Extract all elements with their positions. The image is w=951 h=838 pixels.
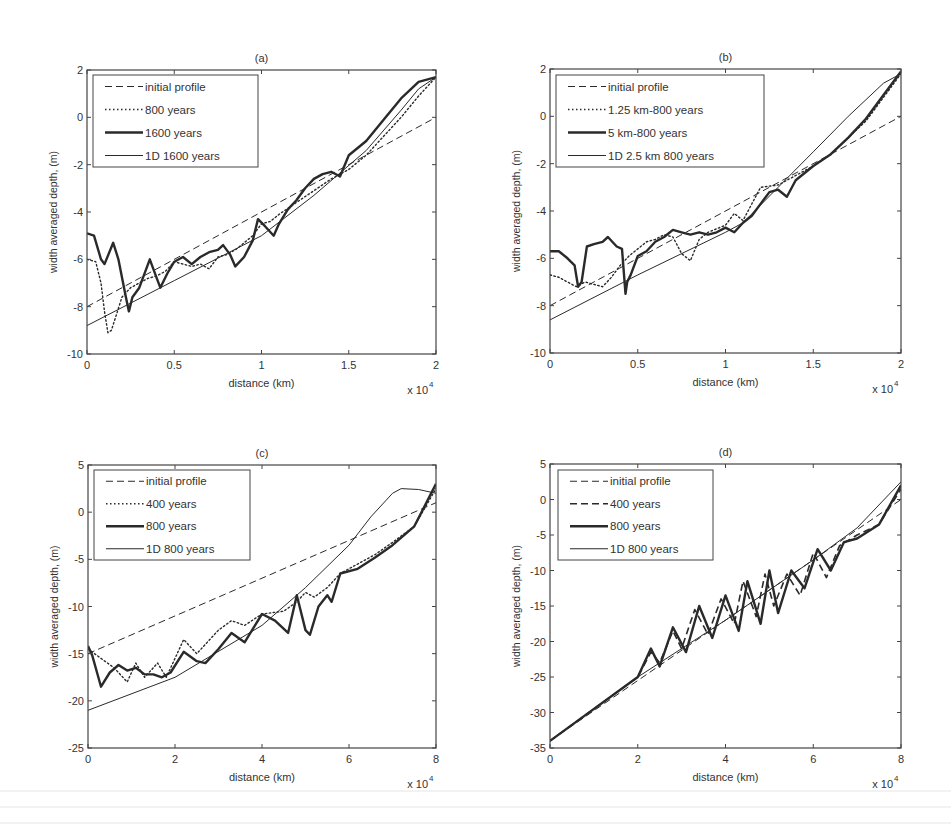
legend: initial profile1.25 km-800 years5 km-800… <box>556 75 764 167</box>
y-tick-label: -25 <box>530 671 546 683</box>
legend-entry: initial profile <box>610 475 671 487</box>
legend-entry: 400 years <box>146 498 197 510</box>
x-tick-label: 1.5 <box>806 358 821 370</box>
x-axis-multiplier-exponent: 4 <box>894 379 899 388</box>
legend-entry: 800 years <box>146 520 197 532</box>
y-tick-label: 2 <box>540 63 546 75</box>
x-tick-label: 0.5 <box>167 359 182 371</box>
subplot-title: (b) <box>719 51 732 63</box>
subplot-b: (b)00.511.52-10-8-6-4-202distance (km)x … <box>510 51 904 395</box>
y-tick-label: -2 <box>73 159 83 171</box>
x-tick-label: 1.5 <box>341 359 356 371</box>
y-tick-label: 5 <box>78 459 84 471</box>
y-tick-label: -6 <box>536 252 546 264</box>
y-axis-label: width averaged depth, (m) <box>510 545 522 668</box>
legend-entry: 5 km-800 years <box>608 127 688 139</box>
x-tick-label: 1 <box>258 359 264 371</box>
figure: (a)00.511.52-10-8-6-4-202distance (km)x … <box>0 0 951 838</box>
y-tick-label: 2 <box>77 64 83 76</box>
legend-entry: 800 years <box>610 520 661 532</box>
y-axis-label: width averaged depth, (m) <box>47 151 59 274</box>
y-tick-label: -6 <box>73 253 83 265</box>
x-tick-label: 2 <box>635 753 641 765</box>
x-axis-multiplier-exponent: 4 <box>429 774 434 783</box>
x-tick-label: 0 <box>547 753 553 765</box>
y-tick-label: -10 <box>68 601 84 613</box>
x-tick-label: 6 <box>810 753 816 765</box>
bleed-line <box>0 822 951 824</box>
y-tick-label: 0 <box>540 494 546 506</box>
legend-entry: initial profile <box>146 475 207 487</box>
x-tick-label: 4 <box>259 753 265 765</box>
subplot-title: (d) <box>719 446 732 458</box>
subplot-title: (c) <box>256 447 269 459</box>
y-tick-label: -35 <box>530 742 546 754</box>
y-tick-label: -20 <box>68 695 84 707</box>
legend-entry: initial profile <box>608 81 669 93</box>
y-tick-label: 0 <box>77 111 83 123</box>
x-axis-multiplier: x 10 <box>407 778 428 790</box>
legend-entry: initial profile <box>145 81 206 93</box>
y-tick-label: -2 <box>536 158 546 170</box>
legend-entry: 1D 800 years <box>146 543 215 555</box>
x-tick-label: 0 <box>85 753 91 765</box>
legend: initial profile400 years800 years1D 800 … <box>94 470 250 560</box>
y-tick-label: 5 <box>540 458 546 470</box>
legend-entry: 800 years <box>145 104 196 116</box>
x-tick-label: 6 <box>346 753 352 765</box>
legend-entry: 1.25 km-800 years <box>608 104 703 116</box>
plots-svg: (a)00.511.52-10-8-6-4-202distance (km)x … <box>0 0 951 838</box>
y-tick-label: 0 <box>540 110 546 122</box>
y-axis-label: width averaged depth, (m) <box>510 150 522 273</box>
x-axis-multiplier-exponent: 4 <box>894 774 899 783</box>
legend-entry: 1D 800 years <box>610 543 679 555</box>
x-axis-multiplier: x 10 <box>872 778 893 790</box>
y-tick-label: -30 <box>530 707 546 719</box>
y-tick-label: -25 <box>68 742 84 754</box>
y-tick-label: -15 <box>68 648 84 660</box>
y-tick-label: -10 <box>530 565 546 577</box>
legend-entry: 1D 2.5 km 800 years <box>608 150 714 162</box>
y-tick-label: -4 <box>73 206 83 218</box>
x-axis-multiplier-exponent: 4 <box>429 380 434 389</box>
bleed-line <box>0 790 951 792</box>
legend: initial profile400 years800 years1D 800 … <box>558 470 713 560</box>
y-tick-label: -10 <box>67 348 83 360</box>
subplot-d: (d)02468-35-30-25-20-15-10-505distance (… <box>510 446 904 790</box>
y-tick-label: -8 <box>536 300 546 312</box>
x-tick-label: 1 <box>722 358 728 370</box>
legend-entry: 400 years <box>610 498 661 510</box>
y-tick-label: -20 <box>530 636 546 648</box>
x-tick-label: 2 <box>172 753 178 765</box>
subplot-a: (a)00.511.52-10-8-6-4-202distance (km)x … <box>47 52 439 396</box>
legend-entry: 1600 years <box>145 127 202 139</box>
x-axis-label: distance (km) <box>228 377 294 389</box>
x-tick-label: 2 <box>433 359 439 371</box>
y-tick-label: -4 <box>536 205 546 217</box>
y-tick-label: -8 <box>73 301 83 313</box>
x-tick-label: 0 <box>84 359 90 371</box>
x-axis-label: distance (km) <box>229 771 295 783</box>
subplot-c: (c)02468-25-20-15-10-505distance (km)x 1… <box>48 447 439 790</box>
x-axis-multiplier: x 10 <box>872 383 893 395</box>
x-axis-multiplier: x 10 <box>407 384 428 396</box>
y-tick-label: 0 <box>78 506 84 518</box>
x-tick-label: 0 <box>547 358 553 370</box>
subplot-title: (a) <box>255 52 268 64</box>
x-tick-label: 8 <box>433 753 439 765</box>
y-tick-label: -5 <box>74 553 84 565</box>
x-axis-label: distance (km) <box>692 376 758 388</box>
y-tick-label: -15 <box>530 600 546 612</box>
x-tick-label: 8 <box>898 753 904 765</box>
x-tick-label: 2 <box>898 358 904 370</box>
y-tick-label: -10 <box>530 347 546 359</box>
y-axis-label: width averaged depth, (m) <box>48 546 60 669</box>
x-axis-label: distance (km) <box>692 771 758 783</box>
bleed-line <box>0 806 951 808</box>
x-tick-label: 4 <box>722 753 728 765</box>
legend: initial profile800 years1600 years1D 160… <box>93 75 258 167</box>
legend-entry: 1D 1600 years <box>145 150 220 162</box>
x-tick-label: 0.5 <box>630 358 645 370</box>
y-tick-label: -5 <box>536 529 546 541</box>
